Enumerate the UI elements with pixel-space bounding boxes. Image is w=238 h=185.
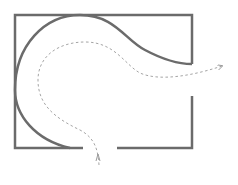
curved-wall: [15, 15, 192, 148]
room-wall-left-top: [15, 15, 192, 148]
diagram-canvas: [0, 0, 238, 185]
room-wall-right-bottom: [117, 96, 192, 148]
